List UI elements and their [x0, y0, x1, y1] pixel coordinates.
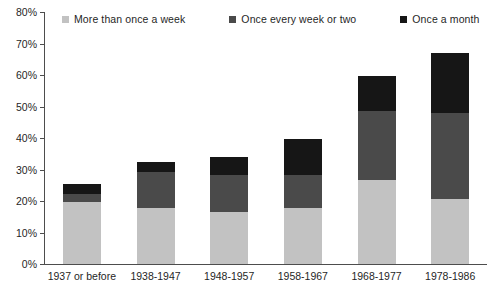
bar-segment [210, 212, 248, 264]
y-axis-tick-label: 10% [16, 227, 37, 238]
y-axis-tick-label: 30% [16, 164, 37, 175]
y-axis-tick [40, 138, 44, 139]
y-axis-tick [40, 44, 44, 45]
bar-4 [284, 139, 322, 264]
bar-segment [137, 172, 175, 208]
bar-segment [284, 139, 322, 175]
bar-segment [137, 208, 175, 264]
x-axis-labels: 1937 or before1938-19471948-19571958-196… [45, 270, 487, 286]
bar-group [45, 12, 487, 264]
bar-segment [63, 202, 101, 264]
y-axis-tick-label: 50% [16, 101, 37, 112]
x-axis-category-label: 1978-1986 [425, 270, 475, 282]
x-axis-category-label: 1937 or before [48, 270, 116, 282]
bar-1 [63, 184, 101, 264]
bar-segment [137, 162, 175, 172]
x-axis-line [44, 264, 487, 265]
x-axis-category-label: 1968-1977 [351, 270, 401, 282]
bar-segment [210, 175, 248, 212]
bar-segment [358, 111, 396, 180]
y-axis-tick [40, 12, 44, 13]
y-axis-tick-label: 80% [16, 7, 37, 18]
y-axis-tick [40, 107, 44, 108]
y-axis-tick-label: 40% [16, 133, 37, 144]
x-axis-category-label: 1948-1957 [204, 270, 254, 282]
y-axis-tick [40, 264, 44, 265]
y-axis-tick-label: 60% [16, 70, 37, 81]
x-axis-category-label: 1958-1967 [278, 270, 328, 282]
bar-6 [431, 53, 469, 264]
bar-segment [358, 76, 396, 112]
y-axis-tick [40, 170, 44, 171]
bar-3 [210, 157, 248, 264]
plot-area: 0%10%20%30%40%50%60%70%80% [44, 12, 487, 265]
bar-segment [358, 180, 396, 264]
y-axis-tick-label: 0% [22, 259, 37, 270]
bar-5 [358, 76, 396, 264]
x-axis-category-label: 1938-1947 [130, 270, 180, 282]
y-axis-tick-label: 20% [16, 196, 37, 207]
bar-segment [210, 157, 248, 175]
bar-segment [431, 113, 469, 199]
y-axis-tick [40, 75, 44, 76]
y-axis-tick [40, 233, 44, 234]
bar-2 [137, 162, 175, 264]
y-axis-tick-label: 70% [16, 38, 37, 49]
bar-segment [431, 53, 469, 113]
bar-segment [284, 175, 322, 208]
bar-segment [284, 208, 322, 264]
y-axis-tick [40, 201, 44, 202]
bar-segment [63, 194, 101, 202]
stacked-bar-chart: More than once a week Once every week or… [0, 0, 497, 293]
bar-segment [63, 184, 101, 194]
bar-segment [431, 199, 469, 264]
